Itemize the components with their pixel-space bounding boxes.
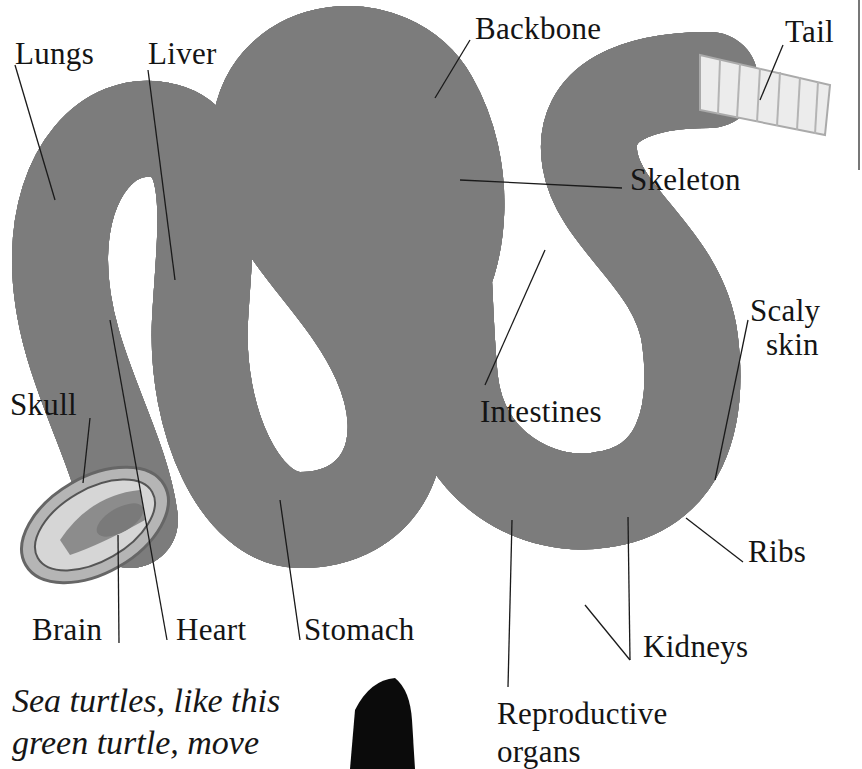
label-scaly: Scaly — [750, 294, 820, 328]
label-organs: organs — [497, 735, 581, 769]
snake-anatomy-diagram: Lungs Liver Backbone Tail Skeleton Scaly… — [0, 0, 862, 769]
turtle-silhouette — [350, 678, 415, 769]
label-stomach: Stomach — [304, 613, 415, 647]
label-liver: Liver — [148, 37, 217, 71]
snake-body — [60, 54, 710, 520]
caption-line-1: Sea turtles, like this — [12, 680, 280, 722]
label-heart: Heart — [176, 613, 246, 647]
label-ribs: Ribs — [748, 535, 806, 569]
label-skin: skin — [766, 328, 819, 362]
label-brain: Brain — [32, 613, 102, 647]
label-skull: Skull — [10, 388, 77, 422]
page-edge-divider — [858, 0, 860, 170]
label-tail: Tail — [785, 15, 834, 49]
label-lungs: Lungs — [15, 37, 94, 71]
caption-line-2: green turtle, move — [12, 722, 280, 764]
label-intestines: Intestines — [480, 395, 602, 429]
label-reproductive: Reproductive — [497, 697, 668, 731]
caption-text: Sea turtles, like this green turtle, mov… — [12, 680, 280, 764]
label-skeleton: Skeleton — [630, 163, 741, 197]
label-kidneys: Kidneys — [643, 630, 748, 664]
label-backbone: Backbone — [475, 12, 601, 46]
